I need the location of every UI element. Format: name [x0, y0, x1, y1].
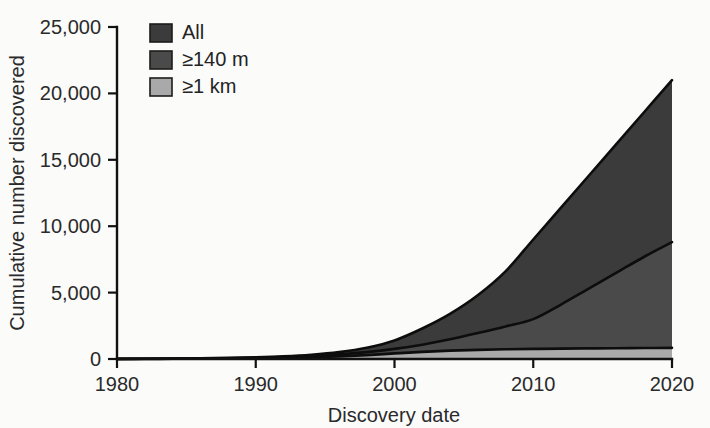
x-tick-label: 1990: [234, 373, 279, 395]
y-tick-label: 15,000: [40, 149, 101, 171]
x-tick-label: 2000: [372, 373, 417, 395]
y-tick-label: 25,000: [40, 16, 101, 38]
y-tick-label: 0: [90, 348, 101, 370]
y-axis-title: Cumulative number discovered: [6, 55, 28, 331]
y-tick-label: 10,000: [40, 215, 101, 237]
x-tick-label: 2010: [511, 373, 556, 395]
legend-label: All: [182, 21, 204, 43]
x-tick-label: 1980: [95, 373, 140, 395]
x-axis-title: Discovery date: [328, 404, 460, 426]
legend-label: ≥1 km: [182, 75, 236, 97]
y-tick-label: 5,000: [51, 282, 101, 304]
legend-swatch: [150, 78, 172, 96]
cumulative-discoveries-chart: 05,00010,00015,00020,00025,000 198019902…: [0, 0, 710, 428]
legend-swatch: [150, 24, 172, 42]
x-tick-label: 2020: [650, 373, 695, 395]
legend-label: ≥140 m: [182, 48, 249, 70]
y-tick-label: 20,000: [40, 82, 101, 104]
chart-figure: 05,00010,00015,00020,00025,000 198019902…: [0, 0, 710, 428]
legend-swatch: [150, 51, 172, 69]
